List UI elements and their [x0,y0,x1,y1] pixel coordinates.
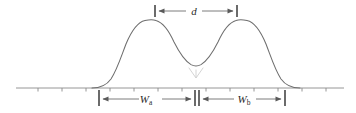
width-b-label: Wb [238,93,251,107]
width-a-label: Wa [140,93,153,107]
width-b-label-subscript: b [247,98,251,107]
axis-group [16,88,344,92]
width-b-arrowhead-right [276,97,282,102]
valley-marker-group [189,68,203,78]
separation-label: d [191,5,197,17]
separation-arrowhead-right [228,9,234,14]
width-b-arrowhead-left [203,97,209,102]
width-a-dimension-group: Wa [99,90,195,107]
width-b-dimension-group: Wb [199,90,285,107]
separation-dimension-group: d [155,5,237,18]
axis-tick-group [38,88,326,92]
width-a-arrowhead-left [103,97,109,102]
separation-arrowhead-left [159,9,165,14]
bimodal-peak-diagram: d Wa Wb [0,0,356,113]
width-a-label-subscript: a [149,98,153,107]
width-a-arrowhead-right [186,97,192,102]
figure-container: d Wa Wb [0,0,356,113]
